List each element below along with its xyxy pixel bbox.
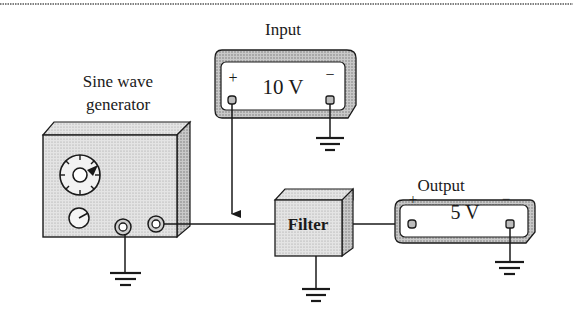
input-plus-terminal-icon [228,96,236,104]
input-meter: Input + − 10 V [215,20,356,118]
input-meter-title: Input [265,20,301,39]
output-minus-sign: − [502,191,510,207]
amplitude-knob-icon [69,208,89,228]
filter-block: Filter [275,189,353,256]
input-plus-sign: + [228,69,237,86]
generator-label-line1: Sine wave [83,72,153,91]
output-meter: Output + − 5 V [395,176,535,243]
input-reading: 10 V [262,75,303,99]
generator-ground-icon [110,234,141,285]
ground-jack-icon [115,219,131,235]
output-reading: 5 V [450,201,480,223]
output-minus-terminal-icon [506,220,514,228]
circuit-diagram: Sine wave generator [0,0,573,324]
output-jack-icon [148,216,164,232]
output-plus-terminal-icon [408,220,416,228]
output-plus-sign: + [409,191,417,207]
input-minus-terminal-icon [326,96,334,104]
generator-label-line2: generator [86,95,151,114]
sine-wave-generator: Sine wave generator [43,72,190,237]
filter-label: Filter [288,215,329,234]
filter-ground-icon [302,256,330,301]
frequency-dial-icon [60,155,100,195]
input-minus-sign: − [325,66,334,83]
